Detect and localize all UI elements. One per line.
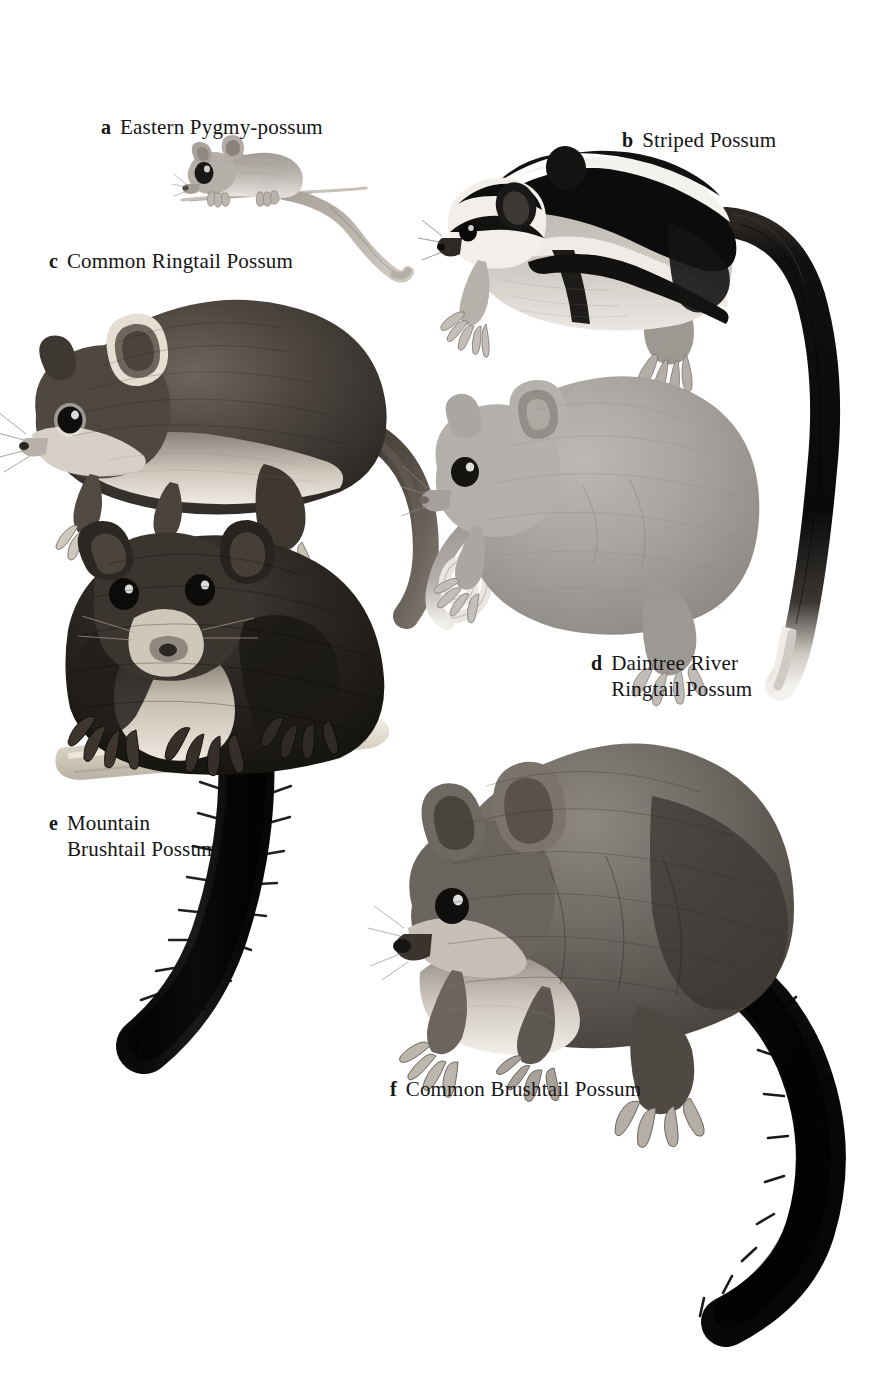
eye bbox=[435, 888, 469, 924]
caption-a-text: Eastern Pygmy-possum bbox=[120, 115, 323, 139]
caption-f: fCommon Brushtail Possum bbox=[390, 1050, 641, 1102]
caption-d: dDaintree RiverRingtail Possum bbox=[591, 624, 752, 702]
nose bbox=[159, 644, 177, 657]
caption-e-text: MountainBrushtail Possum bbox=[67, 810, 218, 862]
caption-e: eMountainBrushtail Possum bbox=[49, 784, 218, 862]
figure-f-common-brushtail-possum bbox=[400, 720, 880, 1360]
caption-d-line1: Daintree River bbox=[611, 651, 738, 675]
eye-right bbox=[185, 574, 215, 606]
eye bbox=[58, 407, 83, 434]
caption-b: bStriped Possum bbox=[622, 101, 776, 153]
forefoot bbox=[207, 192, 230, 207]
eye bbox=[195, 162, 214, 184]
caption-e-line2: Brushtail Possum bbox=[67, 837, 218, 861]
eye-left bbox=[109, 578, 139, 610]
caption-e-letter: e bbox=[49, 812, 58, 834]
caption-a-letter: a bbox=[101, 116, 111, 138]
caption-c: cCommon Ringtail Possum bbox=[49, 222, 293, 274]
caption-a: aEastern Pygmy-possum bbox=[101, 88, 323, 140]
hindfoot bbox=[256, 191, 279, 206]
caption-b-letter: b bbox=[622, 129, 633, 151]
nose bbox=[393, 939, 411, 953]
caption-c-letter: c bbox=[49, 250, 58, 272]
caption-e-line1: Mountain bbox=[67, 811, 150, 835]
caption-b-text: Striped Possum bbox=[642, 128, 776, 152]
caption-d-letter: d bbox=[591, 652, 602, 674]
eye bbox=[451, 457, 479, 487]
caption-d-line2: Ringtail Possum bbox=[611, 677, 752, 701]
nose bbox=[19, 442, 29, 450]
caption-d-text: Daintree RiverRingtail Possum bbox=[611, 650, 752, 702]
caption-f-text: Common Brushtail Possum bbox=[406, 1077, 642, 1101]
caption-c-text: Common Ringtail Possum bbox=[67, 249, 293, 273]
nose bbox=[419, 496, 429, 504]
illustration-plate: aEastern Pygmy-possum bStriped Possum cC… bbox=[0, 0, 892, 1393]
caption-f-letter: f bbox=[390, 1078, 397, 1100]
